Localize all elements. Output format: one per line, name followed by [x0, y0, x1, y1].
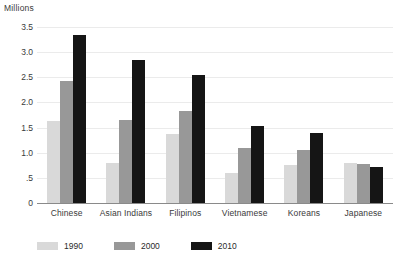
legend: 199020002010	[37, 240, 268, 252]
bar-group	[37, 27, 96, 203]
bar	[166, 134, 179, 203]
x-axis-tick-label: Filipinos	[169, 208, 201, 218]
bar	[310, 133, 323, 203]
bar	[179, 111, 192, 203]
bar	[60, 81, 73, 203]
y-axis-tick-label: 3.0	[21, 48, 33, 57]
y-axis-tick-label: 3.5	[21, 23, 33, 32]
bar	[251, 126, 264, 203]
y-axis-tick-label: 1.0	[21, 148, 33, 157]
plot-area	[37, 27, 393, 203]
y-axis-tick-label: 1.5	[21, 123, 33, 132]
bar	[73, 35, 86, 203]
legend-item[interactable]: 2000	[114, 242, 160, 251]
legend-item[interactable]: 2010	[191, 242, 237, 251]
bar-group	[96, 27, 155, 203]
y-axis-tick-labels: 3.53.02.52.01.51.0.50	[0, 27, 33, 203]
legend-label: 2000	[141, 242, 160, 251]
y-axis-tick-label: .5	[26, 174, 33, 183]
bar	[370, 167, 383, 203]
legend-swatch-icon	[114, 242, 135, 250]
bar	[284, 165, 297, 203]
legend-label: 1990	[64, 242, 83, 251]
bar	[238, 148, 251, 203]
bar-group	[215, 27, 274, 203]
x-axis-tick-label: Chinese	[51, 208, 83, 218]
x-axis-category-labels: ChineseAsian IndiansFilipinosVietnameseK…	[37, 208, 393, 224]
y-axis-tick-label: 2.0	[21, 98, 33, 107]
y-axis-title: Millions	[4, 3, 34, 13]
legend-label: 2010	[218, 242, 237, 251]
y-axis-tick-label: 2.5	[21, 73, 33, 82]
legend-swatch-icon	[37, 242, 58, 250]
bar	[119, 120, 132, 203]
x-axis-tick-label: Vietnamese	[222, 208, 268, 218]
bar	[192, 75, 205, 203]
grouped-bar-chart: Millions 3.53.02.52.01.51.0.50 ChineseAs…	[0, 0, 401, 263]
bar	[344, 163, 357, 203]
bar-group	[334, 27, 393, 203]
bar	[225, 173, 238, 203]
legend-item[interactable]: 1990	[37, 242, 83, 251]
legend-swatch-icon	[191, 242, 212, 250]
bar-groups	[37, 27, 393, 203]
bar	[47, 121, 60, 203]
bar-group	[156, 27, 215, 203]
x-axis-tick-label: Asian Indians	[100, 208, 152, 218]
axis-baseline	[37, 203, 393, 204]
y-axis-tick-label: 0	[28, 199, 33, 208]
x-axis-tick-label: Japanese	[344, 208, 382, 218]
bar	[297, 150, 310, 203]
bar	[357, 164, 370, 203]
bar	[106, 163, 119, 203]
bar-group	[274, 27, 333, 203]
x-axis-tick-label: Koreans	[288, 208, 320, 218]
bar	[132, 60, 145, 203]
